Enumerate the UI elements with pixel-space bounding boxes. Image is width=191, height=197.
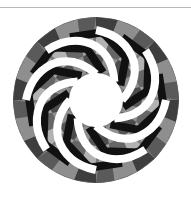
rosette-pattern: [0, 0, 191, 197]
center-hole: [69, 73, 123, 127]
